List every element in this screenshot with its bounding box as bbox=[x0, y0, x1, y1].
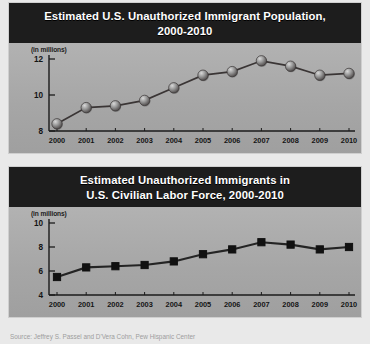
chart-title-line-1: Estimated Unauthorized Immigrants in bbox=[13, 173, 357, 188]
svg-text:6: 6 bbox=[38, 267, 43, 276]
infographic-poster: Estimated U.S. Unauthorized Immigrant Po… bbox=[0, 0, 370, 344]
svg-text:2001: 2001 bbox=[78, 136, 94, 145]
svg-text:2004: 2004 bbox=[166, 300, 183, 309]
svg-text:2001: 2001 bbox=[78, 300, 94, 309]
chart-svg-population: 8101220002001200220032004200520062007200… bbox=[9, 43, 361, 154]
chart-panel-population: Estimated U.S. Unauthorized Immigrant Po… bbox=[8, 2, 362, 154]
svg-text:10: 10 bbox=[34, 219, 44, 228]
svg-text:8: 8 bbox=[38, 127, 43, 136]
chart-title-population: Estimated U.S. Unauthorized Immigrant Po… bbox=[9, 3, 361, 43]
svg-text:2000: 2000 bbox=[49, 136, 65, 145]
chart-svg-labor-force: 4681020002001200220032004200520062007200… bbox=[9, 207, 361, 318]
chart-title-labor-force: Estimated Unauthorized Immigrants in U.S… bbox=[9, 167, 361, 207]
plot-area-population: (in millions) 81012200020012002200320042… bbox=[9, 43, 361, 154]
source-note: Source: Jeffrey S. Passel and D'Vera Coh… bbox=[10, 333, 360, 344]
svg-text:2010: 2010 bbox=[341, 136, 357, 145]
svg-text:12: 12 bbox=[34, 55, 44, 64]
svg-text:2009: 2009 bbox=[312, 300, 328, 309]
svg-text:2002: 2002 bbox=[107, 300, 123, 309]
chart-title-line-2: 2000-2010 bbox=[13, 24, 357, 39]
svg-text:10: 10 bbox=[34, 91, 44, 100]
svg-text:2003: 2003 bbox=[136, 136, 152, 145]
svg-text:2006: 2006 bbox=[224, 136, 240, 145]
svg-text:8: 8 bbox=[38, 243, 43, 252]
svg-text:2000: 2000 bbox=[49, 300, 65, 309]
svg-text:2005: 2005 bbox=[195, 136, 211, 145]
svg-text:2008: 2008 bbox=[282, 300, 298, 309]
svg-text:2009: 2009 bbox=[312, 136, 328, 145]
chart-title-line-1: Estimated U.S. Unauthorized Immigrant Po… bbox=[13, 9, 357, 24]
svg-text:2007: 2007 bbox=[253, 136, 269, 145]
svg-text:2002: 2002 bbox=[107, 136, 123, 145]
svg-text:4: 4 bbox=[38, 291, 43, 300]
chart-panel-labor-force: Estimated Unauthorized Immigrants in U.S… bbox=[8, 166, 362, 318]
svg-text:2007: 2007 bbox=[253, 300, 269, 309]
svg-text:2006: 2006 bbox=[224, 300, 240, 309]
svg-text:2003: 2003 bbox=[136, 300, 152, 309]
chart-title-line-2: U.S. Civilian Labor Force, 2000-2010 bbox=[13, 188, 357, 203]
svg-text:2004: 2004 bbox=[166, 136, 183, 145]
plot-area-labor-force: (in millions) 46810200020012002200320042… bbox=[9, 207, 361, 318]
svg-text:2008: 2008 bbox=[282, 136, 298, 145]
svg-text:2005: 2005 bbox=[195, 300, 211, 309]
svg-text:2010: 2010 bbox=[341, 300, 357, 309]
